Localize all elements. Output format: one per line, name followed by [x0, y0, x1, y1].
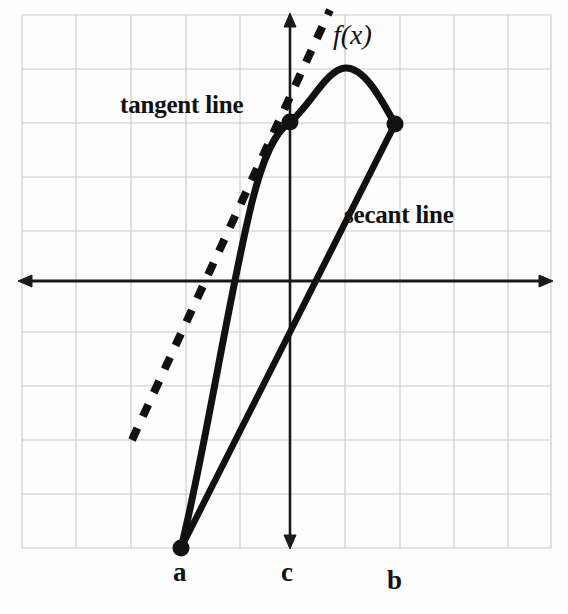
figure-canvas	[0, 0, 568, 614]
axes	[18, 13, 553, 549]
point-a-label: a	[173, 559, 187, 586]
point-c-label: c	[281, 559, 293, 586]
function-curve-path	[181, 68, 395, 548]
point-c-marker	[282, 114, 299, 131]
mean-value-theorem-figure: tangent line secant line f(x) a c b	[0, 0, 568, 614]
secant-line-path	[181, 124, 395, 548]
point-a-marker	[173, 540, 190, 557]
function-label: f(x)	[333, 21, 372, 49]
x-axis-arrow-left	[18, 275, 32, 287]
tangent-line-label: tangent line	[120, 92, 243, 117]
point-b-label: b	[387, 567, 402, 594]
y-axis-arrow-down	[284, 535, 296, 549]
point-b-marker	[387, 116, 404, 133]
tangent-line-path	[132, 10, 330, 440]
secant-line-label: secant line	[344, 202, 454, 227]
